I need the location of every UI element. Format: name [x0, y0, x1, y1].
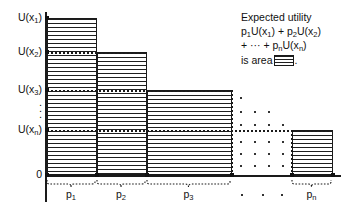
legend-l2-u2: U(x	[297, 25, 313, 37]
ytick-ux2-sub: 2	[34, 50, 38, 59]
legend-l2-p2-sub: 2	[293, 30, 297, 39]
gap-dot	[240, 124, 242, 126]
legend-l2-end: )	[318, 25, 322, 37]
gap-dot	[254, 153, 256, 155]
bar-p3	[147, 90, 232, 175]
xtick-p2-base: p	[116, 188, 122, 200]
ytick-ux2: U(x2)	[0, 46, 42, 58]
level-line-ux3	[47, 90, 233, 92]
legend-line-4: is area.	[241, 54, 347, 68]
node-pn-end	[331, 173, 335, 177]
brace-p2	[96, 179, 146, 188]
node-p1-end	[95, 173, 99, 177]
xtick-p2-sub: 2	[122, 193, 126, 202]
legend-l3-u-sub: n	[299, 44, 303, 53]
bar-pn	[292, 130, 333, 175]
gap-dot	[282, 153, 284, 155]
node-pn-start	[290, 173, 294, 177]
separator-p3-gap	[231, 90, 233, 176]
separator-gap-pn	[291, 130, 293, 176]
legend-l2-u-sub: 1	[267, 30, 271, 39]
x-axis	[45, 175, 341, 177]
legend-l3-u: U(x	[283, 39, 299, 51]
bar-p2	[97, 52, 147, 175]
separator-p1-p2	[96, 52, 98, 176]
y-axis-ellipsis: . . .	[0, 99, 52, 117]
legend-period: .	[295, 54, 298, 66]
legend-l2-u: U(x	[251, 25, 267, 37]
xtick-p3-sub: 3	[189, 193, 193, 202]
ytick-ux1-close: )	[39, 11, 43, 23]
xtick-pn: pn	[291, 189, 332, 201]
gap-dot	[254, 124, 256, 126]
brace-pn	[291, 179, 332, 188]
ytick-ux3-sub: 3	[34, 88, 38, 97]
legend-l3-end: )	[303, 39, 307, 51]
gap-dot	[268, 124, 270, 126]
gap-dot	[268, 153, 270, 155]
ytick-ux1: U(x1)	[0, 12, 42, 24]
legend-l3-start: + ··· + p	[241, 39, 278, 51]
legend-line-2: p1U(x1) + p2U(x2)	[241, 25, 347, 40]
y-ellipsis-dot-3: .	[0, 111, 42, 117]
xtick-p2: p2	[96, 189, 146, 201]
gap-dot	[240, 97, 242, 99]
hatched-area-swatch	[274, 55, 294, 66]
ytick-uxn: U(xn)	[0, 124, 42, 136]
node-p2-end	[145, 173, 149, 177]
separator-p2-p3	[146, 90, 148, 176]
gap-dot	[240, 141, 242, 143]
bar-p1	[47, 18, 97, 175]
expected-utility-area-chart: U(x1) U(x2) U(x3) . . . U(xn) 0	[0, 0, 348, 211]
node-p3-end	[230, 173, 234, 177]
x-axis-ellipsis-dot	[241, 194, 243, 196]
ytick-ux3-base: U(x	[18, 83, 34, 95]
legend-l2-p-sub: 1	[247, 30, 251, 39]
x-axis-ellipsis-dot	[281, 194, 283, 196]
node-ux1	[45, 16, 49, 20]
gap-dot	[240, 153, 242, 155]
ytick-ux3: U(x3)	[0, 84, 42, 96]
ytick-ux2-close: )	[39, 45, 43, 57]
legend-l2-mid: ) + p	[272, 25, 293, 37]
ytick-ux2-base: U(x	[18, 45, 34, 57]
ytick-ux1-sub: 1	[34, 16, 38, 25]
gap-dot	[282, 141, 284, 143]
x-axis-ellipsis-dot	[262, 194, 264, 196]
ytick-zero: 0	[0, 169, 42, 180]
gap-dot	[268, 141, 270, 143]
node-ux3	[45, 88, 49, 92]
node-uxn	[45, 128, 49, 132]
ytick-uxn-close: )	[39, 123, 43, 135]
legend-l3-p-sub: n	[278, 44, 282, 53]
gap-dot	[254, 141, 256, 143]
legend-is-area-label: is area	[241, 54, 273, 66]
xtick-p1-sub: 1	[72, 193, 76, 202]
gap-dot	[254, 111, 256, 113]
xtick-p1-base: p	[66, 188, 72, 200]
xtick-pn-sub: n	[312, 193, 316, 202]
legend-l2-p: p	[241, 25, 247, 37]
legend-line-3: + ··· + pnU(xn)	[241, 39, 347, 54]
gap-dot	[254, 165, 256, 167]
gap-dot	[240, 111, 242, 113]
brace-p3	[146, 179, 231, 188]
gap-dot	[282, 165, 284, 167]
legend-l2-u2-sub: 2	[313, 30, 317, 39]
xtick-p1: p1	[46, 189, 96, 201]
legend-block: Expected utility p1U(x1) + p2U(x2) + ···…	[241, 11, 347, 67]
ytick-zero-base: 0	[36, 168, 42, 180]
ytick-uxn-base: U(x	[18, 123, 34, 135]
gap-dot	[282, 124, 284, 126]
gap-dot	[240, 165, 242, 167]
ytick-uxn-sub: n	[34, 128, 38, 137]
legend-line-1: Expected utility	[241, 11, 347, 25]
node-ux2	[45, 50, 49, 54]
ytick-ux1-base: U(x	[18, 11, 34, 23]
xtick-p3: p3	[146, 189, 231, 201]
gap-dot	[268, 165, 270, 167]
brace-p1	[46, 179, 96, 188]
gap-dot	[268, 111, 270, 113]
ytick-ux3-close: )	[39, 83, 43, 95]
node-origin	[45, 173, 49, 177]
